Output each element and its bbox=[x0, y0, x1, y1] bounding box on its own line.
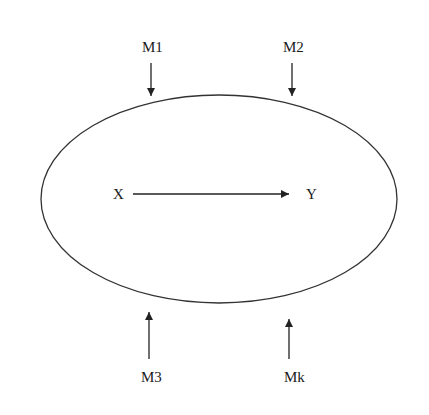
moderator-m2-label: M2 bbox=[283, 39, 304, 55]
context-ellipse bbox=[41, 95, 397, 303]
moderator-m3-label: M3 bbox=[141, 369, 162, 385]
moderation-diagram: X Y M1 M2 M3 Mk bbox=[0, 0, 429, 415]
node-x-label: X bbox=[113, 186, 124, 202]
node-y-label: Y bbox=[306, 186, 317, 202]
moderator-m1-label: M1 bbox=[142, 39, 163, 55]
moderator-mk-label: Mk bbox=[284, 369, 305, 385]
diagram-svg: X Y M1 M2 M3 Mk bbox=[0, 0, 429, 415]
